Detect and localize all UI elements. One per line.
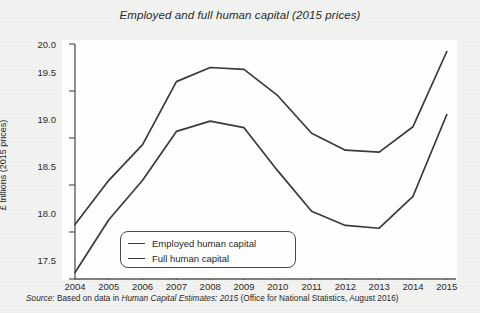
source-text-before: Based on data in [55, 293, 122, 303]
source-publication-title: Human Capital Estimates: 2015 [121, 293, 238, 303]
y-tick-20-0: 20.0 [22, 39, 56, 50]
y-axis-label: £ trillions (2015 prices) [0, 95, 8, 235]
legend-label-full: Full human capital [152, 253, 229, 264]
y-tick-19-0: 19.0 [22, 114, 56, 125]
legend-label-employed: Employed human capital [152, 238, 256, 249]
y-tick-17-5: 17.5 [22, 255, 56, 266]
source-note: Source: Based on data in Human Capital E… [26, 293, 399, 303]
source-lead: Source: [26, 293, 55, 303]
legend-swatch-full-icon [128, 258, 145, 259]
y-tick-18-5: 18.5 [22, 161, 56, 172]
y-tick-19-5: 19.5 [22, 67, 56, 78]
chart-legend[interactable]: Employed human capital Full human capita… [120, 231, 296, 268]
source-text-after: (Office for National Statistics, August … [238, 293, 398, 303]
y-tick-18-0: 18.0 [22, 208, 56, 219]
legend-item-full[interactable]: Full human capital [128, 251, 229, 266]
y-tick-marks [69, 44, 75, 279]
legend-item-employed[interactable]: Employed human capital [128, 236, 256, 251]
chart-figure: Employed and full human capital (2015 pr… [0, 0, 480, 313]
chart-title: Employed and full human capital (2015 pr… [0, 9, 480, 21]
y-axis-tick-labels: 17.5 18.0 18.5 19.0 19.5 20.0 [18, 40, 56, 280]
legend-swatch-employed-icon [128, 243, 145, 244]
x-tick-2015: 2015 [427, 281, 467, 292]
line-full-human-capital [75, 52, 447, 225]
